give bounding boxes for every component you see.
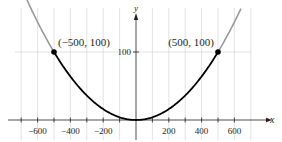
x-axis-label: x: [269, 114, 275, 125]
point-label: (−500, 100): [58, 36, 110, 49]
y-axis-label: y: [133, 3, 138, 13]
x-tick-label: 400: [195, 126, 209, 136]
axes: [8, 13, 272, 140]
x-tick-label: 600: [228, 126, 242, 136]
tick-labels: −600−400−200200400600100: [28, 47, 241, 136]
y-tick-label: 100: [118, 47, 132, 57]
x-tick-label: −400: [61, 126, 80, 136]
x-tick-label: 200: [162, 126, 176, 136]
point-label: (500, 100): [168, 36, 214, 49]
data-point: [51, 49, 57, 55]
parabola-chart: −600−400−200200400600100 (−500, 100)(500…: [0, 0, 282, 142]
x-tick-label: −200: [94, 126, 113, 136]
data-point: [215, 49, 221, 55]
x-tick-label: −600: [28, 126, 47, 136]
curve-extension-right: [218, 9, 241, 52]
y-axis-arrow-icon: [134, 13, 138, 20]
